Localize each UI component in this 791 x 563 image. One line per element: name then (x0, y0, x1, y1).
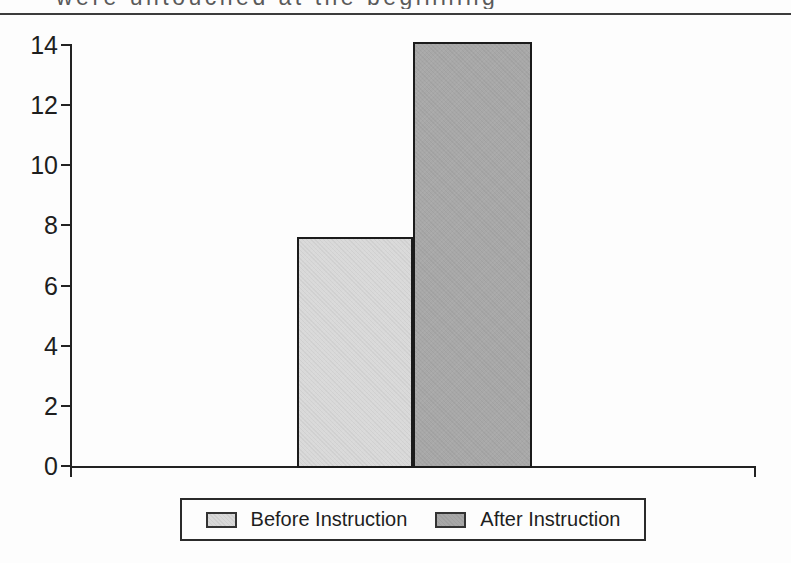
bar-chart: 02468101214 (0, 0, 791, 563)
x-axis-end-tick (754, 466, 756, 477)
y-tick-2 (61, 405, 71, 407)
y-tick-8 (61, 224, 71, 226)
y-tick-label-14: 14 (14, 32, 58, 58)
after-instruction-swatch (435, 512, 466, 528)
y-tick-0 (61, 465, 71, 467)
legend-item-after-instruction: After Instruction (435, 508, 620, 531)
y-tick-10 (61, 164, 71, 166)
legend: Before Instruction After Instruction (180, 498, 646, 541)
bar-after-instruction (413, 42, 532, 468)
y-tick-12 (61, 104, 71, 106)
y-tick-label-4: 4 (14, 333, 58, 359)
y-tick-label-6: 6 (14, 273, 58, 299)
y-tick-4 (61, 345, 71, 347)
legend-label-before: Before Instruction (251, 508, 408, 531)
scanned-figure-page: were untouched at the beginning 02468101… (0, 0, 791, 563)
legend-item-before-instruction: Before Instruction (206, 508, 408, 531)
y-axis-line (70, 44, 72, 477)
y-tick-label-8: 8 (14, 212, 58, 238)
y-tick-14 (61, 44, 71, 46)
y-tick-label-0: 0 (14, 453, 58, 479)
bar-before-instruction (297, 237, 413, 468)
y-tick-label-10: 10 (14, 152, 58, 178)
before-instruction-swatch (206, 512, 237, 528)
y-tick-label-12: 12 (14, 92, 58, 118)
y-tick-6 (61, 285, 71, 287)
y-tick-label-2: 2 (14, 393, 58, 419)
legend-label-after: After Instruction (480, 508, 620, 531)
